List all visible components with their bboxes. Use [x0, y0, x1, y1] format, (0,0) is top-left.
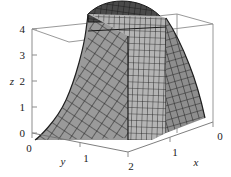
z-tick-4: 4: [20, 23, 26, 35]
z-tick-3: 3: [20, 49, 26, 61]
y-tick-2: 2: [128, 160, 134, 172]
x-tick-0: 0: [217, 130, 223, 142]
z-tick-0: 0: [20, 127, 26, 139]
y-tick-1: 1: [83, 152, 89, 164]
plot-canvas: 0 1 2 3 4 z 0 1 2 y 1 0 x: [0, 0, 231, 177]
z-axis-label: z: [9, 75, 15, 87]
x-axis-label: x: [193, 156, 199, 168]
z-tick-2: 2: [20, 75, 26, 87]
x-tick-1: 1: [172, 146, 178, 158]
y-axis-label: y: [60, 155, 66, 167]
y-tick-0: 0: [26, 142, 32, 154]
surface-plot-figure: 0 1 2 3 4 z 0 1 2 y 1 0 x: [0, 0, 231, 177]
z-tick-1: 1: [20, 101, 26, 113]
